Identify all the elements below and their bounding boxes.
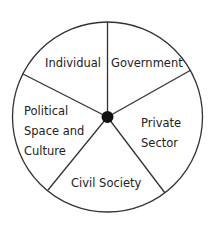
hub-dot	[102, 111, 114, 123]
label-line: Sector	[141, 133, 181, 153]
label-line: Space and	[24, 121, 84, 141]
label-line: Culture	[24, 141, 84, 161]
segment-label-government: Government	[111, 53, 183, 73]
segment-label-individual: Individual	[45, 53, 101, 73]
spoke-upper-right	[108, 70, 192, 117]
label-line: Private	[141, 113, 181, 133]
segment-label-civil-society: Civil Society	[71, 173, 141, 193]
segment-label-political-space-culture: Political Space and Culture	[24, 101, 84, 161]
segment-label-private-sector: Private Sector	[141, 113, 181, 153]
label-line: Political	[24, 101, 84, 121]
